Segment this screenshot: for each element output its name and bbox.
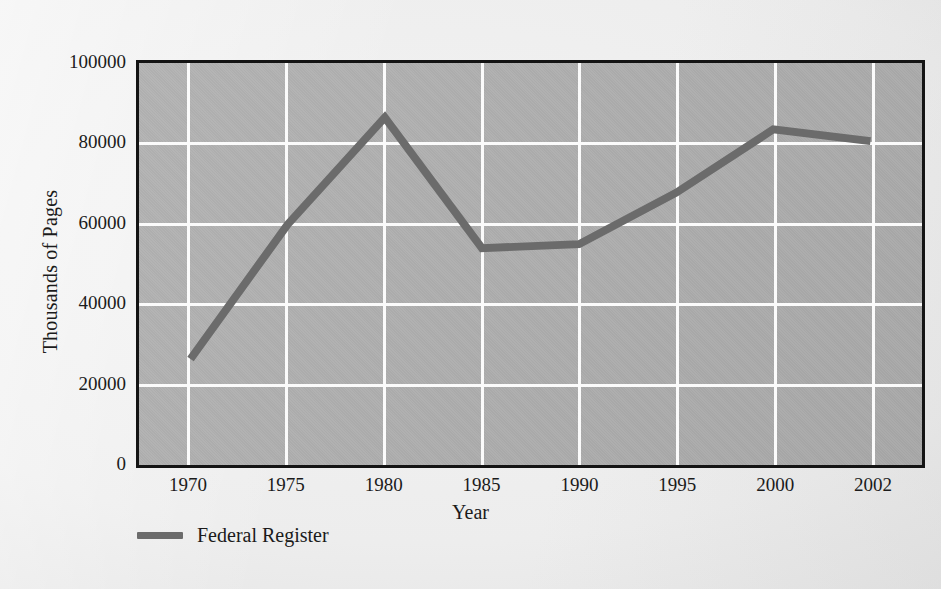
x-axis-tick-label: 1985 — [437, 474, 527, 496]
x-axis-title: Year — [0, 501, 941, 524]
y-axis-title: Thousands of Pages — [39, 142, 62, 402]
y-axis-tick-label: 60000 — [0, 212, 126, 234]
plot-area — [136, 60, 925, 468]
chart-legend: Federal Register — [137, 524, 329, 547]
y-axis-tick-label: 80000 — [0, 131, 126, 153]
chart-figure: Thousands of Pages 020000400006000080000… — [0, 0, 941, 589]
y-axis-tick-label: 40000 — [0, 292, 126, 314]
x-axis-tick-label: 1980 — [339, 474, 429, 496]
legend-line-swatch — [137, 532, 183, 539]
y-axis-tick-label: 20000 — [0, 373, 126, 395]
x-axis-tick-label: 1975 — [241, 474, 331, 496]
x-axis-tick-label: 2000 — [730, 474, 820, 496]
x-axis-tick-label: 1995 — [632, 474, 722, 496]
x-axis-tick-label: 1990 — [534, 474, 624, 496]
y-axis-tick-label: 100000 — [0, 51, 126, 73]
legend-label: Federal Register — [197, 524, 329, 547]
series-line-federal-register — [139, 63, 922, 465]
y-axis-tick-label: 0 — [0, 453, 126, 475]
x-axis-tick-label: 1970 — [143, 474, 233, 496]
x-axis-tick-label: 2002 — [828, 474, 918, 496]
